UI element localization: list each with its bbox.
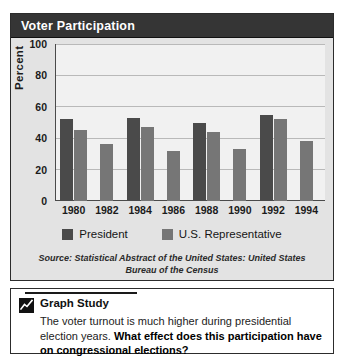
y-tick-80: 80: [35, 69, 47, 81]
chart-card: Voter Participation Percent 100806040200…: [10, 13, 334, 281]
x-axis-ticks: 19801982198419861988199019921994: [55, 204, 325, 216]
x-tick-1986: 1986: [157, 204, 190, 216]
study-title: Graph Study: [40, 297, 109, 309]
bar-groups: [55, 44, 325, 201]
bar-1982-representative: [100, 144, 113, 201]
x-tick-1994: 1994: [290, 204, 323, 216]
voter-participation-figure: Voter Participation Percent 100806040200…: [0, 0, 343, 361]
legend-item-representative: U.S. Representative: [162, 228, 282, 240]
bar-1980-representative: [74, 130, 87, 201]
y-axis-ticks: 100806040200: [13, 44, 51, 201]
legend-swatch-president: [62, 229, 73, 240]
chart-legend: PresidentU.S. Representative: [11, 228, 333, 240]
bar-1984-president: [127, 118, 140, 201]
study-header: Graph Study: [19, 297, 325, 313]
y-tick-60: 60: [35, 101, 47, 113]
bar-1980-president: [60, 119, 73, 201]
bar-group-1980: [57, 44, 90, 201]
bar-group-1990: [223, 44, 256, 201]
bar-group-1986: [157, 44, 190, 201]
x-tick-1990: 1990: [223, 204, 256, 216]
y-tick-20: 20: [35, 164, 47, 176]
bar-1990-representative: [233, 149, 246, 201]
legend-swatch-representative: [162, 229, 173, 240]
chart-header: Voter Participation: [11, 14, 333, 38]
bar-1994-representative: [300, 141, 313, 201]
x-tick-1988: 1988: [190, 204, 223, 216]
line-chart-icon: [19, 298, 34, 313]
x-tick-1992: 1992: [257, 204, 290, 216]
bar-1984-representative: [141, 127, 154, 201]
bar-group-1982: [90, 44, 123, 201]
source-line-1: Source: Statistical Abstract of the Unit…: [25, 252, 319, 264]
bar-1992-representative: [274, 119, 287, 201]
bar-group-1992: [257, 44, 290, 201]
bar-group-1988: [190, 44, 223, 201]
plot-inner: 100806040200: [55, 44, 325, 201]
study-body: The voter turnout is much higher during …: [40, 314, 325, 358]
source-citation: Source: Statistical Abstract of the Unit…: [25, 252, 319, 276]
y-tick-100: 100: [29, 38, 47, 50]
bar-group-1994: [290, 44, 323, 201]
x-tick-1980: 1980: [57, 204, 90, 216]
bar-group-1984: [124, 44, 157, 201]
x-tick-1984: 1984: [124, 204, 157, 216]
bar-1988-representative: [207, 132, 220, 201]
y-tick-40: 40: [35, 132, 47, 144]
legend-item-president: President: [62, 228, 128, 240]
study-divider: [25, 292, 137, 294]
bar-1992-president: [260, 115, 273, 201]
bar-1988-president: [193, 123, 206, 202]
bar-1986-representative: [167, 151, 180, 201]
source-line-2: Bureau of the Census: [25, 264, 319, 276]
x-tick-1982: 1982: [90, 204, 123, 216]
y-tick-0: 0: [41, 195, 47, 207]
legend-label: President: [79, 228, 128, 240]
chart-title: Voter Participation: [21, 19, 135, 33]
legend-label: U.S. Representative: [179, 228, 282, 240]
graph-study-box: Graph Study The voter turnout is much hi…: [10, 288, 334, 354]
plot-area: Percent 100806040200 1980198219841986198…: [11, 38, 333, 238]
